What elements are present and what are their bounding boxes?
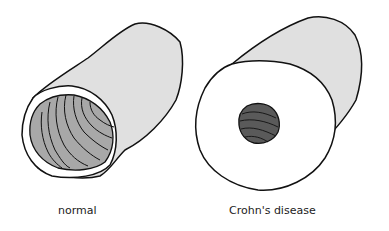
- normal-bowel: [22, 23, 183, 178]
- diagram-canvas: [0, 0, 389, 231]
- label-crohns-disease: Crohn's disease: [229, 204, 316, 217]
- label-normal: normal: [58, 204, 97, 217]
- crohns-bowel: [196, 17, 362, 190]
